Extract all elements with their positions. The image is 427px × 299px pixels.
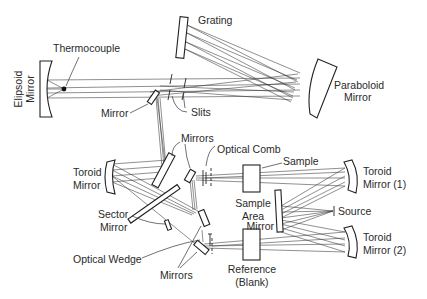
label-thermocouple: Thermocouple [53, 42, 120, 54]
label-mirrors-upper: Mirrors [181, 132, 214, 144]
label-sample-area-line1: Sample [235, 197, 271, 209]
label-sector-line2: Mirror [100, 221, 128, 233]
label-source: Source [338, 205, 371, 217]
thermocouple [62, 87, 67, 92]
label-paraboloid-line2: Mirror [344, 91, 372, 103]
label-ellipsoid-mirror: Elipsoid Mirror [12, 70, 36, 107]
label-toroid2-line1: Toroid [363, 231, 392, 243]
label-sector-line1: Sector [98, 208, 129, 220]
label-reference-line1: Reference [228, 263, 277, 275]
label-slits: Slits [191, 106, 211, 118]
label-toroid-left-line2: Mirror [73, 179, 101, 191]
lower-mirror [194, 240, 209, 254]
svg-text:Elipsoid: Elipsoid [12, 70, 24, 107]
sector-side-mirror [198, 209, 210, 226]
paraboloid-mirror [309, 59, 337, 118]
label-optical-comb: Optical Comb [217, 143, 281, 155]
toroid-mirror-1 [344, 160, 357, 193]
toroid-mirror-2 [344, 226, 357, 258]
label-toroid1-line1: Toroid [363, 165, 392, 177]
label-optical-wedge: Optical Wedge [73, 253, 142, 265]
label-toroid-left-line1: Toroid [73, 166, 102, 178]
label-toroid2-line2: Mirror (2) [363, 244, 406, 256]
source-mirror [275, 190, 283, 232]
label-grating: Grating [198, 14, 233, 26]
label-mirrors-lower: Mirrors [160, 269, 193, 281]
sector-mirror-hub [164, 220, 171, 231]
svg-text:Mirror: Mirror [24, 75, 36, 103]
spectrophotometer-optical-diagram: Grating Thermocouple Elipsoid Mirror Mir… [0, 0, 427, 299]
label-paraboloid-line1: Paraboloid [334, 79, 384, 91]
grating [176, 17, 188, 59]
label-mirror-source: Mirror [247, 220, 275, 232]
label-toroid1-line2: Mirror (1) [363, 178, 406, 190]
label-reference-line2: (Blank) [235, 276, 268, 288]
label-sample: Sample [283, 155, 319, 167]
reference-cell [243, 229, 260, 260]
label-mirror-top: Mirror [101, 107, 129, 119]
sample-area-cell [243, 165, 260, 192]
